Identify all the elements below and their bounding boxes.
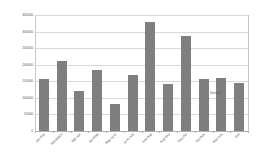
x-tick-mark (195, 131, 196, 133)
x-tick-label: Oct-Nov (195, 133, 206, 144)
bar (216, 78, 226, 131)
x-tick-mark (213, 131, 214, 133)
bar (199, 79, 209, 131)
x-tick-mark (35, 131, 36, 133)
x-tick-mark (177, 131, 178, 133)
x-tick-mark (159, 131, 160, 133)
x-tick-label: Feb-March (51, 133, 65, 147)
x-tick-label: Jan-Feb (36, 133, 47, 144)
y-tick-label: 50000 (3, 112, 33, 116)
bar (128, 75, 138, 131)
bar (74, 91, 84, 131)
y-axis-labels: 0500001000001500002000002500003000003500… (2, 15, 33, 131)
legend-swatch-series1 (206, 92, 209, 95)
bar (234, 83, 244, 131)
bar (57, 61, 67, 131)
x-tick-label: Mar-Apr (71, 133, 82, 144)
bar (145, 22, 155, 131)
x-tick-label: Dec (235, 133, 242, 140)
x-tick-mark (142, 131, 143, 133)
x-tick-label: May-June (105, 133, 117, 145)
x-tick-mark (53, 131, 54, 133)
x-tick-mark (71, 131, 72, 133)
x-tick-mark (106, 131, 107, 133)
y-tick-label: 300000 (3, 30, 33, 34)
y-tick-label: 150000 (3, 79, 33, 83)
x-tick-label: Aug-Sep (159, 133, 170, 144)
x-tick-label: Apr-May (89, 133, 100, 144)
x-tick-label: July-Aug (142, 133, 153, 144)
x-tick-mark (88, 131, 89, 133)
bar (110, 104, 120, 131)
x-axis-labels: Jan-FebFeb-MarchMar-AprApr-MayMay-JuneJu… (35, 132, 248, 164)
bars-layer (35, 15, 248, 131)
bar (163, 84, 173, 131)
bar (92, 70, 102, 131)
chart-legend: Series1 (206, 91, 221, 95)
y-tick-label: 200000 (3, 63, 33, 67)
x-tick-label: Sep-Oct (178, 133, 189, 144)
y-tick-label: 100000 (3, 96, 33, 100)
x-tick-mark (124, 131, 125, 133)
bar-chart: 0500001000001500002000002500003000003500… (0, 0, 261, 164)
bar (181, 36, 191, 131)
x-tick-mark (230, 131, 231, 133)
x-tick-label: June-July (123, 133, 135, 145)
y-tick-label: 0 (3, 129, 33, 133)
bar (39, 79, 49, 131)
y-tick-label: 350000 (3, 13, 33, 17)
y-tick-label: 250000 (3, 46, 33, 50)
x-tick-mark (248, 131, 249, 133)
x-tick-label: Nov-Dec (213, 133, 224, 144)
legend-label-series1: Series1 (210, 91, 221, 95)
plot-right-border (248, 15, 249, 132)
